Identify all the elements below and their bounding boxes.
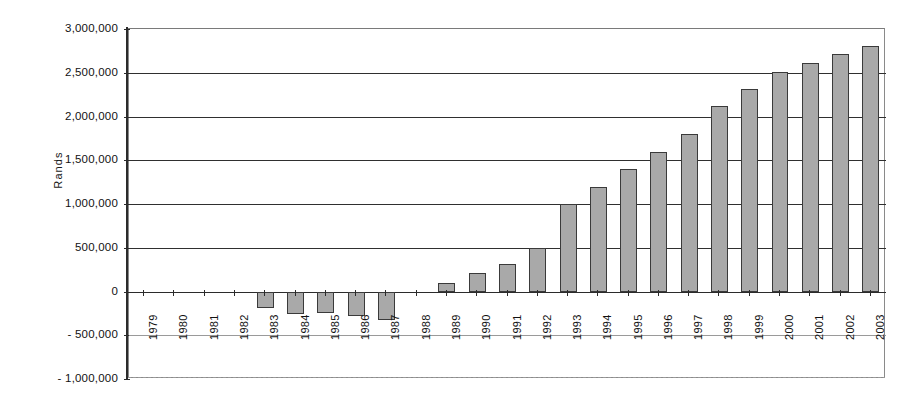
x-tick-label: 1998 (723, 314, 734, 340)
x-tick-mark (658, 290, 659, 296)
y-tick-label: 1,000,000 (6, 198, 118, 209)
x-tick-mark (779, 290, 780, 296)
x-tick-label: 2003 (875, 314, 886, 340)
x-tick-label: 1980 (178, 314, 189, 340)
x-tick-mark (840, 290, 841, 296)
y-tick-label: 1,500,000 (6, 154, 118, 165)
x-tick-label: 1987 (390, 314, 401, 340)
x-tick-label: 1984 (300, 314, 311, 340)
x-tick-label: 2001 (814, 314, 825, 340)
x-tick-mark (537, 290, 538, 296)
x-tick-mark (870, 290, 871, 296)
x-tick-mark (234, 290, 235, 296)
bottom-rule (128, 377, 885, 378)
x-tick-label: 1995 (633, 314, 644, 340)
x-tick-mark (628, 290, 629, 296)
y-axis-tick-labels: 3,000,0002,500,0002,000,0001,500,0001,00… (0, 0, 118, 417)
y-tick-label: - 1,000,000 (6, 373, 118, 384)
x-tick-label: 2002 (845, 314, 856, 340)
x-tick-label: 2000 (784, 314, 795, 340)
x-tick-mark (264, 290, 265, 296)
x-tick-mark (507, 290, 508, 296)
x-tick-mark (325, 290, 326, 296)
x-tick-mark (173, 290, 174, 296)
x-tick-mark (143, 290, 144, 296)
x-tick-label: 1999 (754, 314, 765, 340)
y-tick-label: 2,500,000 (6, 66, 118, 77)
x-tick-label: 1979 (148, 314, 159, 340)
x-axis: 1979198019811982198319841985198619871988… (128, 0, 885, 417)
x-tick-label: 1986 (360, 314, 371, 340)
x-tick-label: 1997 (693, 314, 704, 340)
x-tick-label: 1991 (512, 314, 523, 340)
x-tick-mark (204, 290, 205, 296)
y-tick-label: 500,000 (6, 241, 118, 252)
x-tick-mark (476, 290, 477, 296)
x-tick-mark (385, 290, 386, 296)
x-tick-mark (446, 290, 447, 296)
x-tick-mark (567, 290, 568, 296)
x-tick-label: 1994 (602, 314, 613, 340)
y-tick-label: 3,000,000 (6, 23, 118, 34)
x-tick-mark (416, 290, 417, 296)
x-tick-label: 1989 (451, 314, 462, 340)
x-tick-label: 1993 (572, 314, 583, 340)
x-tick-label: 1988 (421, 314, 432, 340)
x-tick-mark (295, 290, 296, 296)
x-tick-label: 1996 (663, 314, 674, 340)
bar-chart: Rands 3,000,0002,500,0002,000,0001,500,0… (0, 0, 923, 417)
y-tick-label: 2,000,000 (6, 110, 118, 121)
x-tick-mark (688, 290, 689, 296)
x-tick-label: 1982 (239, 314, 250, 340)
x-tick-label: 1983 (269, 314, 280, 340)
x-tick-mark (749, 290, 750, 296)
x-tick-label: 1985 (330, 314, 341, 340)
x-tick-mark (809, 290, 810, 296)
x-tick-mark (355, 290, 356, 296)
x-tick-mark (718, 290, 719, 296)
x-tick-mark (597, 290, 598, 296)
x-tick-label: 1981 (209, 314, 220, 340)
y-tick-label: - 500,000 (6, 329, 118, 340)
x-tick-label: 1992 (542, 314, 553, 340)
y-tick-label: 0 (6, 285, 118, 296)
x-tick-label: 1990 (481, 314, 492, 340)
